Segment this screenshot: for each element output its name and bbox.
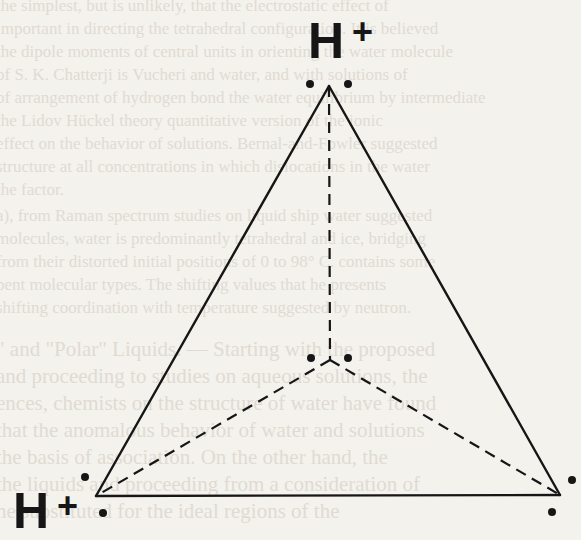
electron-dot-apex — [344, 80, 352, 88]
bottom-left-hydrogen-ion-label: H+ — [13, 486, 70, 536]
electron-dot-bottom_right — [568, 476, 576, 484]
tetrahedron-diagram — [0, 0, 581, 540]
hydrogen-symbol: H — [308, 13, 344, 69]
top-hydrogen-ion-label: H+ — [308, 16, 365, 66]
electron-dot-center — [344, 354, 352, 362]
dashed-edges — [96, 86, 560, 496]
electron-dot-bottom_left — [99, 509, 107, 517]
electron-dot-bottom_right — [548, 508, 556, 516]
hydrogen-symbol: H — [13, 483, 49, 539]
solid-edges — [96, 86, 560, 496]
electron-dot-center — [307, 354, 315, 362]
dashed-edge-apex-center — [329, 86, 330, 360]
positive-charge: + — [352, 11, 373, 52]
electron-dot-bottom_left — [81, 473, 89, 481]
edge-apex-bottom_right — [329, 86, 560, 495]
dashed-edge-center-bottom_left — [96, 360, 330, 496]
scanned-page: the simplest, but is unlikely, that the … — [0, 0, 581, 540]
edge-apex-bottom_left — [96, 86, 329, 496]
electron-dot-apex — [306, 80, 314, 88]
edge-bottom_left-bottom_right — [96, 495, 560, 496]
dashed-edge-center-bottom_right — [330, 360, 560, 495]
positive-charge: + — [57, 485, 78, 526]
